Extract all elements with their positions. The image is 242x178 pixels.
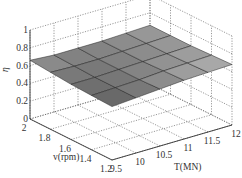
y-tick-label: 1.8 bbox=[39, 133, 51, 143]
floor-grid-line bbox=[92, 115, 212, 150]
wall-grid-line bbox=[30, 0, 150, 30]
z-axis-label: η bbox=[0, 67, 10, 72]
z-tick-label: 1 bbox=[23, 25, 28, 35]
x-tick-label: 10.5 bbox=[156, 150, 173, 160]
x-tick-label: 9.5 bbox=[110, 164, 122, 174]
surface-chart: 00.20.40.60.811.21.41.61.829.51010.51111… bbox=[0, 0, 242, 178]
z-tick-label: 0.2 bbox=[16, 96, 28, 106]
z-tick-label: 0.6 bbox=[16, 61, 28, 71]
z-tick-label: 0.8 bbox=[16, 43, 28, 53]
y-tick-label: 1.4 bbox=[80, 154, 92, 164]
x-tick-label: 10 bbox=[135, 157, 145, 167]
x-tick-label: 11 bbox=[183, 143, 192, 153]
x-axis-label: T(MN) bbox=[174, 162, 201, 173]
surface-mesh bbox=[30, 25, 232, 106]
x-tick-label: 12 bbox=[231, 129, 241, 139]
z-tick-label: 0.4 bbox=[16, 78, 28, 88]
floor-grid-line bbox=[71, 105, 191, 140]
y-axis-label: v(rpm) bbox=[53, 152, 79, 163]
x-tick-label: 11.5 bbox=[204, 136, 221, 146]
y-tick-label: 2 bbox=[22, 123, 27, 133]
